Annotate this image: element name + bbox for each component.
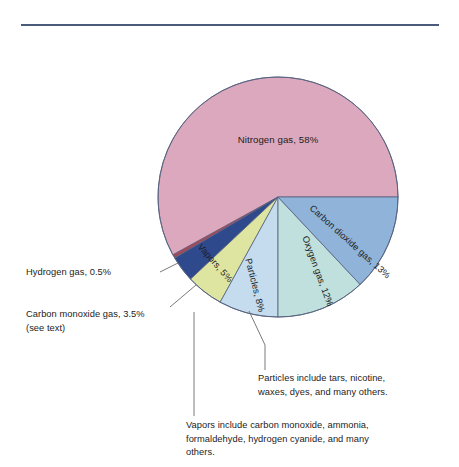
figure-container: Nitrogen gas, 58% Carbon dioxide gas, 13… (0, 0, 459, 467)
pie-slices-rendered (158, 77, 398, 317)
callout-vapors-note: Vapors include carbon monoxide, ammonia,… (186, 419, 401, 460)
label-nitrogen: Nitrogen gas, 58% (238, 134, 319, 145)
leader-line-particles (249, 311, 265, 370)
callout-carbon-monoxide: Carbon monoxide gas, 3.5% (see text) (26, 308, 201, 335)
callout-particles-note: Particles include tars, nicotine, waxes,… (258, 372, 448, 399)
callout-hydrogen: Hydrogen gas, 0.5% (26, 266, 176, 280)
leader-line-carbon-monoxide (170, 285, 196, 307)
